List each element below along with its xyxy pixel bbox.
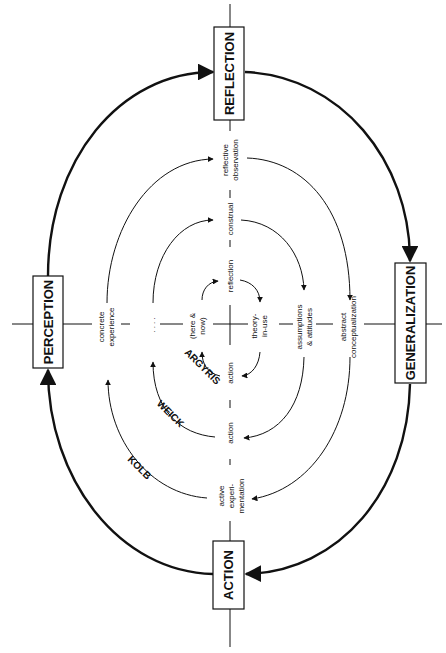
argyris-left-line2: now): [198, 317, 207, 335]
kolb-arc-2: [247, 158, 350, 300]
weick-top: construal: [226, 203, 235, 236]
stage-action-label: ACTION: [221, 550, 236, 600]
weick-bottom: action: [226, 422, 235, 443]
kolb-top-line2: observation: [231, 139, 240, 180]
kolb-top-line1: reflective: [221, 143, 230, 176]
kolb-left-line2: experience: [107, 307, 116, 347]
stage-perception: PERCEPTION: [33, 276, 63, 368]
weick-ring: [153, 220, 304, 438]
argyris-arc-3: [242, 352, 260, 376]
argyris-left-line1: (here &: [188, 312, 197, 339]
argyris-right-line2: in-use: [260, 315, 269, 337]
kolb-bottom-line1: active: [217, 485, 226, 506]
weick-labels: construal assumptions & attitudes action…: [148, 203, 314, 444]
kolb-bottom-line2: experi-: [227, 483, 236, 508]
weick-left: . . . .: [148, 317, 157, 333]
stage-action: ACTION: [213, 541, 244, 609]
kolb-right-line2: conceptualization: [349, 296, 358, 358]
learning-cycle-diagram: REFLECTION PERCEPTION GENERALIZATION ACT…: [0, 0, 446, 653]
kolb-right-line1: abstract: [339, 312, 348, 341]
arc-perception-to-reflection: [48, 72, 213, 276]
weick-arc-3: [244, 357, 304, 438]
kolb-arc-3: [252, 357, 350, 499]
stage-generalization-label: GENERALIZATION: [403, 266, 418, 381]
weick-arc-2: [241, 220, 304, 290]
stage-perception-label: PERCEPTION: [41, 280, 56, 365]
argyris-ring-name: ARGYRIS: [182, 347, 222, 387]
weick-right-line1: assumptions: [295, 305, 304, 350]
kolb-arc-4: [108, 380, 207, 498]
stage-reflection-label: REFLECTION: [222, 32, 237, 115]
weick-right-line2: & attitudes: [305, 308, 314, 346]
kolb-ring-name: KOLB: [126, 454, 154, 482]
arc-reflection-to-generalization: [245, 72, 410, 261]
weick-ring-name: WEICK: [155, 398, 187, 430]
argyris-top: reflection: [226, 260, 235, 292]
stage-reflection: REFLECTION: [214, 27, 244, 120]
arc-action-to-perception: [48, 370, 213, 574]
argyris-arc-1: [202, 281, 218, 300]
argyris-arc-2: [240, 280, 260, 302]
argyris-bottom: action: [226, 362, 235, 383]
argyris-labels: reflection theory- in-use action (here &…: [182, 260, 269, 387]
kolb-left-line1: concrete: [97, 311, 106, 342]
argyris-right-line1: theory-: [250, 313, 259, 338]
kolb-bottom-line3: mentation: [237, 478, 246, 513]
kolb-arc-1: [107, 159, 213, 303]
arc-generalization-to-action: [246, 384, 410, 574]
stage-generalization: GENERALIZATION: [395, 263, 426, 383]
